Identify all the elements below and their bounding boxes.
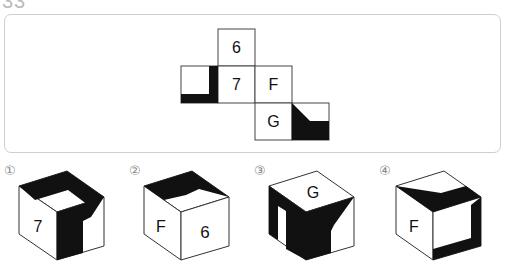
option-4-front-label: F bbox=[409, 218, 419, 235]
answer-cubes[interactable]: 7 F 6 G F bbox=[0, 0, 505, 272]
option-3-top-label: G bbox=[307, 184, 319, 201]
option-2-front-label: F bbox=[156, 218, 166, 235]
option-2-cube[interactable]: F 6 bbox=[144, 171, 229, 260]
option-3-cube[interactable]: G bbox=[269, 171, 354, 260]
option-4-cube[interactable]: F bbox=[396, 171, 481, 260]
option-1-front-label: 7 bbox=[34, 218, 43, 235]
option-2-right-label: 6 bbox=[200, 223, 209, 242]
option-1-cube[interactable]: 7 bbox=[19, 171, 104, 260]
